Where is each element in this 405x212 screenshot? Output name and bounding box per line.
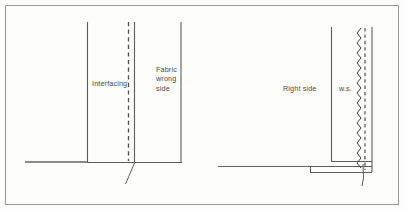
leader-line-right — [362, 164, 364, 186]
label-ws: w.s. — [339, 84, 352, 93]
zigzag-stitch-line — [357, 28, 361, 168]
label-interfacing: Interfacing — [92, 79, 127, 88]
label-right-side: Right side — [283, 84, 316, 93]
leader-line-left — [126, 163, 135, 184]
figure-canvas: Interfacing Fabric wrong side Right side… — [0, 0, 405, 212]
label-fabric-wrong-side: Fabric wrong side — [156, 65, 177, 93]
diagram-artwork — [0, 0, 405, 212]
